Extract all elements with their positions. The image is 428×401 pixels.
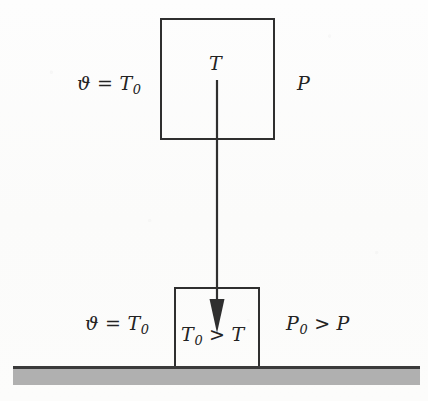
figure-canvas: ϑ = T0 T P ϑ = T0 T0 > T P0 > P <box>0 0 428 401</box>
lower-right-pressure-inequality: P0 > P <box>286 312 350 337</box>
lower-right-rhs: P <box>337 312 350 334</box>
lower-inner-lhs-subscript: 0 <box>194 333 202 348</box>
lower-left-temperature-label: ϑ = T0 <box>85 312 149 337</box>
ground <box>13 366 420 385</box>
lower-right-lhs-subscript: 0 <box>299 322 307 337</box>
upper-left-temperature-text: ϑ = T <box>77 72 132 94</box>
lower-inner-temperature-inequality: T0 > T <box>181 323 244 348</box>
upper-inner-temperature-label: T <box>209 52 222 74</box>
upper-right-pressure-label: P <box>297 72 310 94</box>
ground-fill-band <box>13 369 420 385</box>
lower-inner-operator: > <box>203 323 232 345</box>
lower-right-operator: > <box>308 312 337 334</box>
lower-inner-lhs: T <box>181 323 194 345</box>
lower-left-temperature-subscript: 0 <box>141 322 149 337</box>
upper-left-temperature-label: ϑ = T0 <box>77 72 141 97</box>
lower-inner-rhs: T <box>231 323 244 345</box>
lower-right-lhs: P <box>286 312 299 334</box>
lower-left-temperature-text: ϑ = T <box>85 312 140 334</box>
upper-left-temperature-subscript: 0 <box>133 82 141 97</box>
